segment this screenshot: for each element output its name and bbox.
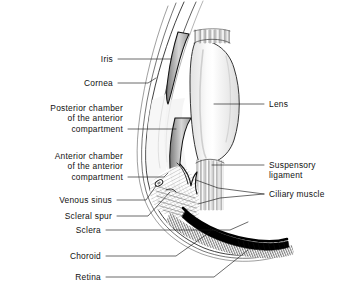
label-iris: Iris <box>18 54 113 64</box>
label-suspensory-ligament: Suspensory ligament <box>269 160 353 181</box>
suspensory-ligament-top <box>194 29 230 43</box>
label-lens: Lens <box>269 99 353 109</box>
lens <box>190 40 239 164</box>
leader-cornea <box>118 78 156 83</box>
label-anterior-chamber: Anterior chamber of the anterior compart… <box>8 151 123 182</box>
label-ciliary-muscle: Ciliary muscle <box>269 189 353 199</box>
label-cornea: Cornea <box>18 78 113 88</box>
label-retina: Retina <box>18 272 101 282</box>
label-posterior-chamber: Posterior chamber of the anterior compar… <box>8 103 123 134</box>
eye-anatomy-figure: Iris Cornea Posterior chamber of the ant… <box>0 0 354 299</box>
label-scleral-spur: Scleral spur <box>18 211 112 221</box>
label-choroid: Choroid <box>18 251 101 261</box>
label-sclera: Sclera <box>18 225 101 235</box>
iris-upper <box>167 32 190 104</box>
label-venous-sinus: Venous sinus <box>18 195 112 205</box>
suspensory-ligament-bottom <box>196 159 224 210</box>
